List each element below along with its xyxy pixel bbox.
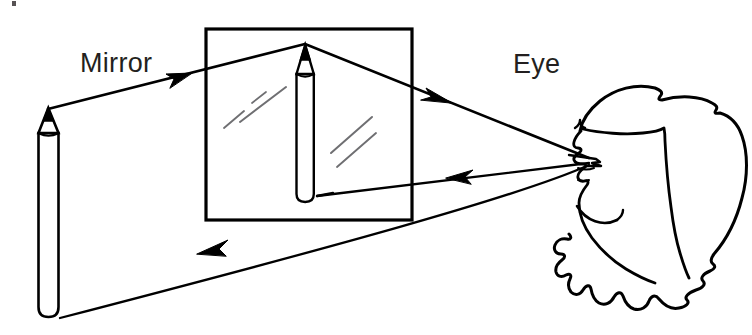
image-pencil-barrel: [297, 74, 314, 202]
face-profile-outline: [574, 131, 655, 283]
image-pencil-group: [297, 45, 314, 202]
eye-lower-lid: [578, 168, 594, 170]
light-rays-group: [48, 44, 589, 318]
glint-upper-2-icon: [240, 87, 286, 122]
glint-upper-1-icon: [224, 111, 244, 128]
glint-lower-2-icon: [337, 133, 376, 167]
ray-lower-connector: [317, 193, 333, 196]
hair-side-lock: [583, 128, 689, 278]
label-eye: Eye: [513, 49, 560, 80]
ray-incident-upper-arrowhead-icon: [166, 73, 192, 88]
ray-virtual-image-line: [60, 165, 589, 318]
ray-reflected-upper-arrowhead-icon: [421, 88, 452, 103]
ray-virtual-image-arrowhead-icon: [197, 240, 228, 256]
hair-outline: [554, 86, 746, 309]
nostril-detail: [578, 180, 589, 181]
glint-upper-1b-icon: [252, 92, 266, 103]
figure-canvas: Mirror Eye: [0, 0, 752, 335]
label-mirror: Mirror: [80, 48, 152, 79]
object-pencil-barrel: [39, 133, 59, 317]
observer-head-group: [554, 86, 746, 309]
mouth-upper-lip: [617, 210, 623, 220]
object-pencil-group: [39, 108, 59, 317]
glint-lower-1-icon: [331, 117, 372, 153]
